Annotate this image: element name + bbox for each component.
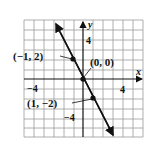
x-axis-label: x [135,66,141,77]
point-label-neg1-2: (−1, 2) [13,50,43,63]
point-origin [80,76,85,81]
leader-1-neg2 [72,99,92,103]
coordinate-graph: x y −4 4 4 −4 (−1, 2) (0, 0) (1, −2) [0,0,151,149]
leader-origin [84,68,91,77]
point-1-neg2 [90,95,95,100]
x-tick-pos4: 4 [120,84,125,95]
leader-neg1-2 [60,56,72,59]
y-tick-neg4: −4 [64,112,75,123]
point-label-1-neg2: (1, −2) [27,97,57,110]
y-tick-pos4: 4 [86,35,91,46]
y-axis-label: y [87,19,93,30]
point-label-origin: (0, 0) [90,56,114,69]
x-tick-neg4: −4 [27,83,38,94]
